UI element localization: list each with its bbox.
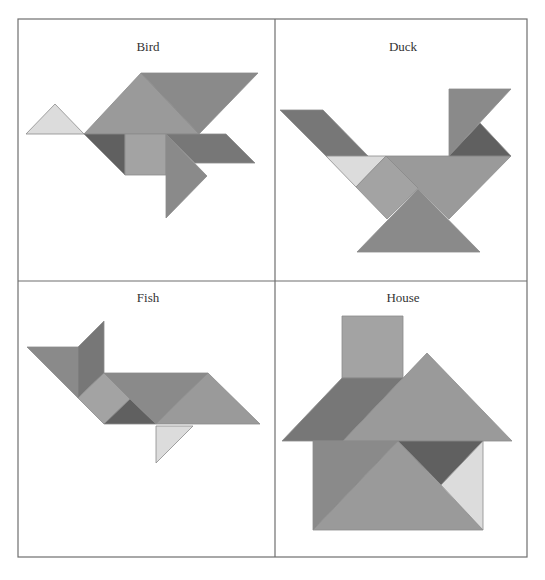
bird-small-triangle-dark — [84, 134, 125, 175]
tangram-grid — [0, 0, 545, 580]
bird-square — [125, 134, 166, 175]
fish-small-triangle-fin — [156, 426, 193, 463]
duck-title: Duck — [389, 40, 417, 53]
fish-title: Fish — [137, 291, 159, 304]
house-square-chimney — [342, 316, 403, 378]
bird-title: Bird — [136, 40, 159, 53]
tangram-figure: Bird Duck Fish House — [0, 0, 545, 580]
panel-fish — [27, 321, 260, 463]
house-title: House — [386, 291, 419, 304]
panel-house — [282, 316, 512, 530]
bird-small-triangle-light — [26, 104, 84, 134]
fish-medium-triangle-tail — [27, 347, 78, 398]
panel-bird — [26, 73, 258, 218]
panel-duck — [280, 89, 511, 252]
duck-parallelogram-tail — [280, 110, 368, 156]
